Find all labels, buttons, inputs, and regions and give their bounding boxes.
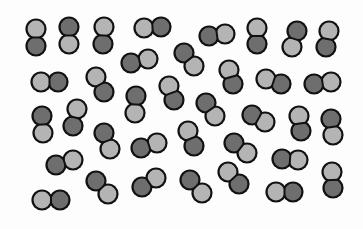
light-atom xyxy=(140,51,157,68)
dark-atom xyxy=(50,74,67,91)
molecule xyxy=(130,132,167,158)
molecule xyxy=(246,17,267,54)
dark-atom xyxy=(65,118,82,135)
dark-atom xyxy=(153,19,170,36)
molecule xyxy=(217,161,249,194)
light-atom xyxy=(321,23,338,40)
dark-atom xyxy=(128,88,145,105)
light-atom xyxy=(324,164,341,181)
molecule xyxy=(120,48,158,73)
light-atom xyxy=(96,19,113,36)
dark-atom xyxy=(289,23,306,40)
dark-atom xyxy=(34,108,51,125)
bond-divider xyxy=(216,30,217,41)
molecule xyxy=(223,132,257,163)
light-atom xyxy=(33,74,50,91)
molecule xyxy=(31,189,70,210)
dark-atom xyxy=(306,76,323,93)
molecule xyxy=(265,181,303,202)
light-atom xyxy=(249,20,266,37)
light-atom xyxy=(127,105,144,122)
bond-divider xyxy=(152,22,153,33)
molecule xyxy=(179,169,212,203)
dark-atom xyxy=(323,111,340,128)
bond-divider xyxy=(290,154,291,165)
dark-atom xyxy=(61,19,78,36)
dark-atom xyxy=(201,28,218,45)
light-atom xyxy=(325,127,342,144)
bond-divider xyxy=(322,78,323,89)
dark-atom xyxy=(95,36,112,53)
molecule xyxy=(31,105,53,143)
molecule xyxy=(173,42,204,76)
molecule xyxy=(62,98,87,136)
molecule xyxy=(131,167,166,197)
diagram-svg xyxy=(0,0,363,229)
light-atom xyxy=(268,184,285,201)
molecule xyxy=(133,16,171,38)
dark-atom xyxy=(48,157,65,174)
bond-divider xyxy=(327,126,338,127)
light-atom xyxy=(284,39,301,56)
molecule xyxy=(271,148,308,170)
light-atom xyxy=(136,20,153,37)
light-atom xyxy=(61,36,78,53)
light-atom xyxy=(149,135,166,152)
molecule xyxy=(25,18,46,56)
molecule xyxy=(255,68,291,94)
molecule xyxy=(198,23,235,46)
dark-atom xyxy=(318,39,335,56)
molecule xyxy=(177,120,204,156)
bond-divider xyxy=(130,104,141,105)
molecule xyxy=(320,108,343,145)
dark-atom xyxy=(123,55,140,72)
dark-atom xyxy=(249,36,266,53)
bond-divider xyxy=(98,35,109,36)
molecule xyxy=(321,161,343,198)
molecule xyxy=(45,149,83,175)
dark-atom xyxy=(274,151,291,168)
light-atom xyxy=(35,125,52,142)
bond-divider xyxy=(37,124,48,125)
molecule xyxy=(288,105,311,141)
dark-atom xyxy=(285,184,302,201)
molecule xyxy=(241,104,275,132)
molecule xyxy=(281,20,307,57)
molecule xyxy=(85,66,114,102)
light-atom xyxy=(217,26,234,43)
dark-atom xyxy=(52,192,69,209)
molecule xyxy=(124,85,146,123)
light-atom xyxy=(323,74,340,91)
dark-atom xyxy=(28,38,45,55)
dark-atom xyxy=(325,180,342,197)
molecule xyxy=(218,59,243,94)
molecule xyxy=(58,16,79,54)
light-atom xyxy=(65,152,82,169)
molecule xyxy=(30,71,68,92)
molecule xyxy=(158,75,184,110)
molecule xyxy=(93,122,120,159)
molecule xyxy=(195,92,225,126)
dark-atom xyxy=(133,140,150,157)
light-atom xyxy=(69,101,86,118)
molecule-diagram xyxy=(0,0,363,229)
molecule xyxy=(92,16,114,54)
light-atom xyxy=(290,152,307,169)
molecule xyxy=(303,71,341,94)
light-atom xyxy=(34,192,51,209)
bond-divider xyxy=(327,180,338,181)
molecule xyxy=(315,20,339,57)
molecule xyxy=(85,170,118,204)
light-atom xyxy=(28,21,45,38)
